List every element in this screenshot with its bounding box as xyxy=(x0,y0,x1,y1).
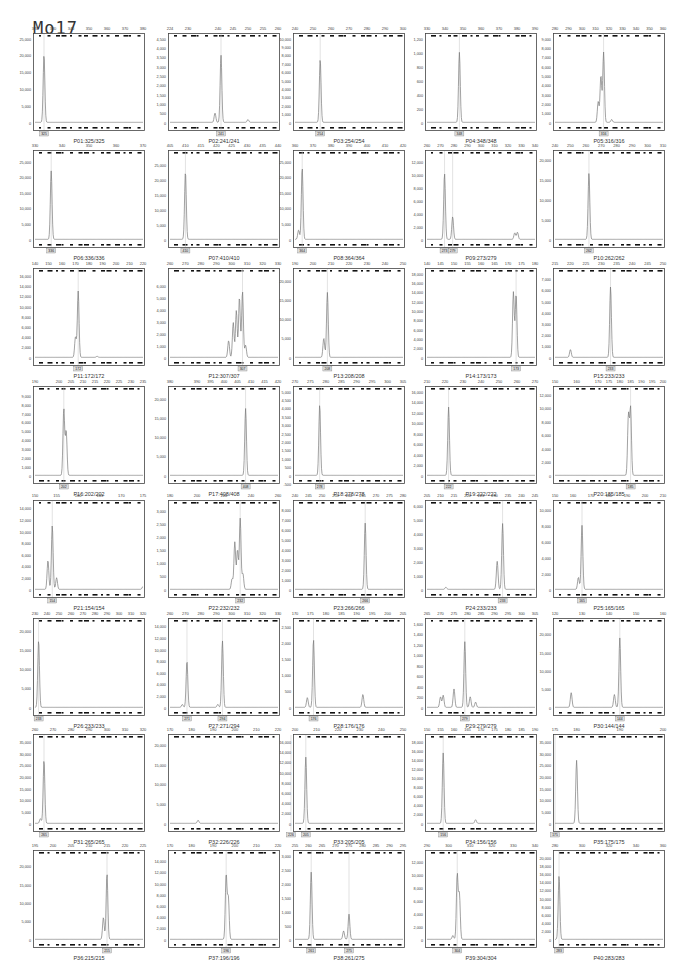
svg-text:220: 220 xyxy=(275,727,282,732)
svg-text:190: 190 xyxy=(210,843,217,848)
svg-text:15,000: 15,000 xyxy=(19,192,31,196)
svg-text:230: 230 xyxy=(32,611,39,616)
svg-text:0: 0 xyxy=(29,589,31,593)
svg-text:380: 380 xyxy=(140,26,147,31)
svg-text:370: 370 xyxy=(496,26,503,31)
svg-text:2,000: 2,000 xyxy=(156,84,166,88)
svg-text:5,000: 5,000 xyxy=(21,223,31,227)
svg-text:225: 225 xyxy=(583,261,590,266)
svg-text:0: 0 xyxy=(421,823,423,827)
svg-text:0: 0 xyxy=(164,475,166,479)
svg-text:10,000: 10,000 xyxy=(154,883,166,887)
panel-grid: 32033034035036037038005,00010,00015,0002… xyxy=(0,0,689,962)
svg-text:20,000: 20,000 xyxy=(539,776,551,780)
allele-tag: 325 xyxy=(40,132,49,137)
svg-text:5,000: 5,000 xyxy=(21,687,31,691)
svg-text:235: 235 xyxy=(613,261,620,266)
svg-text:210: 210 xyxy=(126,261,133,266)
svg-text:225: 225 xyxy=(478,493,485,498)
svg-text:210: 210 xyxy=(437,493,444,498)
svg-text:4,000: 4,000 xyxy=(281,549,291,553)
svg-text:25,000: 25,000 xyxy=(19,38,31,42)
panel-p33: 20021022023024025002,0004,0006,0008,0001… xyxy=(293,734,405,846)
svg-text:310: 310 xyxy=(592,26,599,31)
svg-text:320: 320 xyxy=(259,261,266,266)
svg-text:5,000: 5,000 xyxy=(21,920,31,924)
svg-text:4,000: 4,000 xyxy=(413,338,423,342)
svg-text:0: 0 xyxy=(289,475,291,479)
svg-text:12,000: 12,000 xyxy=(154,637,166,641)
svg-text:0: 0 xyxy=(289,939,291,943)
svg-text:390: 390 xyxy=(194,379,201,384)
svg-text:215: 215 xyxy=(92,379,99,384)
svg-text:6,000: 6,000 xyxy=(541,289,551,293)
svg-text:25,000: 25,000 xyxy=(19,161,31,165)
svg-text:370: 370 xyxy=(122,26,129,31)
svg-text:7,000: 7,000 xyxy=(281,63,291,67)
svg-text:233: 233 xyxy=(36,717,42,721)
svg-text:435: 435 xyxy=(259,143,266,148)
svg-text:20,000: 20,000 xyxy=(279,176,291,180)
svg-text:266: 266 xyxy=(362,599,368,603)
svg-text:320: 320 xyxy=(606,26,613,31)
svg-text:9,000: 9,000 xyxy=(21,395,31,399)
svg-text:300: 300 xyxy=(104,727,111,732)
svg-text:210: 210 xyxy=(253,727,260,732)
svg-text:5,000: 5,000 xyxy=(541,688,551,692)
svg-text:0: 0 xyxy=(421,475,423,479)
svg-text:330: 330 xyxy=(424,26,431,31)
svg-text:270: 270 xyxy=(80,611,87,616)
panel-p10: 24025026027028029030031005,00010,00015,0… xyxy=(553,150,665,262)
svg-text:4,000: 4,000 xyxy=(413,913,423,917)
svg-text:430: 430 xyxy=(244,143,251,148)
svg-text:6,000: 6,000 xyxy=(281,792,291,796)
svg-text:0: 0 xyxy=(549,475,551,479)
allele-tag: 273 xyxy=(440,249,449,254)
svg-text:205: 205 xyxy=(400,611,407,616)
svg-text:172: 172 xyxy=(75,367,81,371)
svg-text:2,000: 2,000 xyxy=(281,569,291,573)
panel-p35: 17518019020005,00010,00015,00020,00025,0… xyxy=(553,734,665,846)
svg-text:380: 380 xyxy=(167,379,174,384)
svg-text:5,000: 5,000 xyxy=(21,105,31,109)
svg-text:230: 230 xyxy=(356,727,363,732)
svg-text:265: 265 xyxy=(359,493,366,498)
svg-text:1,200: 1,200 xyxy=(413,644,423,648)
svg-text:10,000: 10,000 xyxy=(19,902,31,906)
svg-text:10,000: 10,000 xyxy=(19,306,31,310)
svg-text:220: 220 xyxy=(442,379,449,384)
panel-p31: 26027028029030031032005,00010,00015,0002… xyxy=(33,734,145,846)
svg-text:2,500: 2,500 xyxy=(281,433,291,437)
svg-text:5,000: 5,000 xyxy=(21,811,31,815)
allele-tag: 348 xyxy=(455,132,464,137)
svg-text:10,000: 10,000 xyxy=(279,38,291,42)
svg-text:294: 294 xyxy=(220,717,226,721)
svg-text:261: 261 xyxy=(308,949,314,953)
svg-text:1,200: 1,200 xyxy=(413,38,423,42)
svg-text:330: 330 xyxy=(510,843,517,848)
svg-text:2,000: 2,000 xyxy=(541,573,551,577)
svg-text:310: 310 xyxy=(244,261,251,266)
allele-tag: 241 xyxy=(217,132,226,137)
svg-text:310: 310 xyxy=(660,143,667,148)
svg-text:1,500: 1,500 xyxy=(281,897,291,901)
svg-text:220: 220 xyxy=(221,493,228,498)
svg-text:330: 330 xyxy=(518,143,525,148)
svg-text:241: 241 xyxy=(218,132,224,136)
svg-text:20,000: 20,000 xyxy=(19,54,31,58)
svg-text:279: 279 xyxy=(450,249,456,253)
svg-text:1,500: 1,500 xyxy=(156,94,166,98)
svg-text:2,000: 2,000 xyxy=(281,441,291,445)
svg-text:140: 140 xyxy=(606,611,613,616)
svg-text:12,000: 12,000 xyxy=(411,161,423,165)
svg-text:200: 200 xyxy=(642,493,649,498)
svg-text:290: 290 xyxy=(424,843,431,848)
svg-text:6,000: 6,000 xyxy=(156,905,166,909)
svg-text:225: 225 xyxy=(140,843,147,848)
svg-text:230: 230 xyxy=(128,379,135,384)
svg-text:12,000: 12,000 xyxy=(411,301,423,305)
svg-text:290: 290 xyxy=(213,611,220,616)
svg-text:10,000: 10,000 xyxy=(539,898,551,902)
svg-text:5,000: 5,000 xyxy=(156,224,166,228)
svg-text:190: 190 xyxy=(624,493,631,498)
